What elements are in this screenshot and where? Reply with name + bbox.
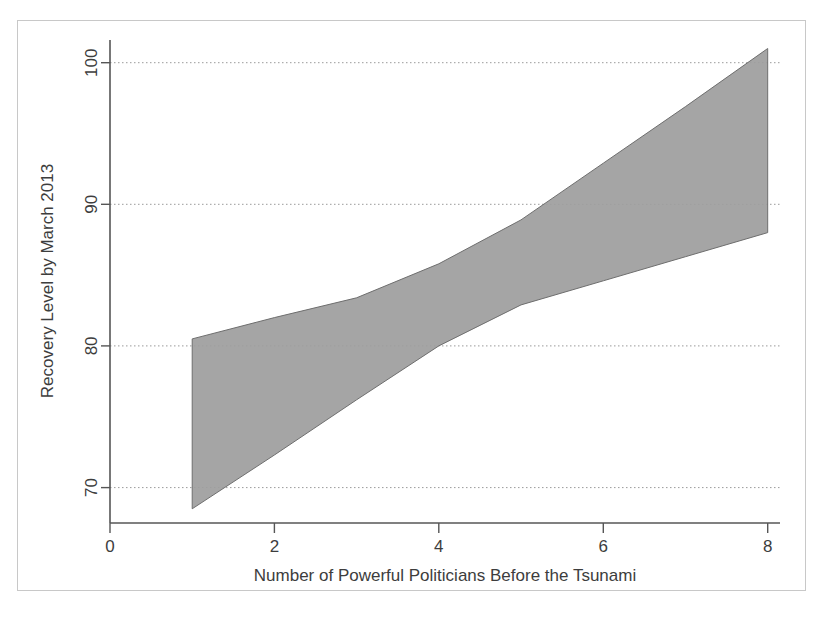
x-tick-label-0: 0	[105, 537, 114, 556]
y-axis-title: Recovery Level by March 2013	[38, 164, 57, 398]
x-tick-label-6: 6	[599, 537, 608, 556]
y-tick-label-70: 70	[83, 478, 102, 497]
y-tick-label-80: 80	[83, 336, 102, 355]
chart-canvas: 100 90 80 70 0 2 4 6 8 Recovery Level by…	[0, 0, 823, 629]
y-tick-label-90: 90	[83, 195, 102, 214]
y-tick-label-100: 100	[83, 49, 102, 77]
x-tick-label-2: 2	[270, 537, 279, 556]
x-tick-label-4: 4	[434, 537, 443, 556]
chart-figure: 100 90 80 70 0 2 4 6 8 Recovery Level by…	[0, 0, 823, 629]
x-tick-label-8: 8	[763, 537, 772, 556]
x-axis-title: Number of Powerful Politicians Before th…	[254, 566, 636, 585]
